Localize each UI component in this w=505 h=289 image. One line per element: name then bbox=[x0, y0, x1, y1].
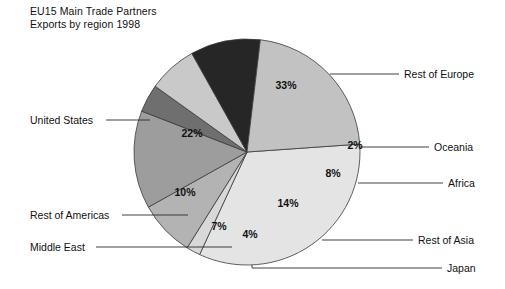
slice-value-label: 4% bbox=[242, 228, 258, 240]
slice-value-label: 7% bbox=[211, 220, 227, 232]
slice-value-label: 33% bbox=[275, 79, 297, 91]
leader-line bbox=[252, 265, 442, 268]
slice-callout-label: Middle East bbox=[30, 241, 85, 253]
pie-chart-svg: 33%2%8%14%4%7%10%22% Rest of EuropeOcean… bbox=[0, 0, 505, 289]
slice-callout-label: Rest of Americas bbox=[30, 209, 109, 221]
slice-callout-label: Rest of Asia bbox=[418, 234, 474, 246]
slice-value-label: 14% bbox=[277, 197, 299, 209]
slice-callout-label: Japan bbox=[447, 262, 476, 274]
pie-slice[interactable] bbox=[247, 40, 360, 152]
pie-chart-figure: EU15 Main Trade Partners Exports by regi… bbox=[0, 0, 505, 289]
slice-value-label: 10% bbox=[174, 186, 196, 198]
slice-callout-label: Africa bbox=[448, 177, 475, 189]
slice-value-label: 8% bbox=[325, 167, 341, 179]
slice-callout-label: United States bbox=[30, 114, 93, 126]
slice-value-label: 22% bbox=[181, 127, 203, 139]
slice-callout-label: Oceania bbox=[434, 141, 473, 153]
slice-callout-label: Rest of Europe bbox=[404, 68, 474, 80]
slice-value-label: 2% bbox=[347, 139, 363, 151]
